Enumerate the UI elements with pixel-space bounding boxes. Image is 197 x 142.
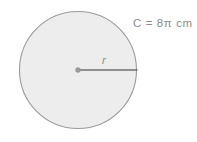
circle-diagram-figure: C = 8π cm r — [0, 0, 197, 142]
radius-label: r — [102, 55, 106, 67]
center-point-dot — [75, 67, 80, 72]
circumference-label: C = 8π cm — [133, 18, 193, 30]
